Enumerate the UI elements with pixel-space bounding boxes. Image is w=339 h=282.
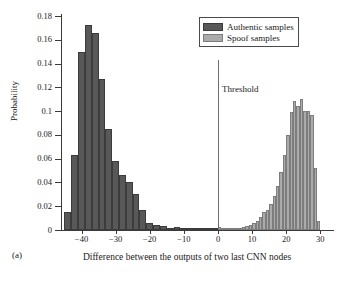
y-tick-label: 0.18 xyxy=(0,12,52,21)
x-tick-label: −10 xyxy=(169,235,199,244)
y-tick-label: 0.02 xyxy=(0,202,52,211)
x-axis-line xyxy=(61,230,334,231)
histogram-bar-authentic xyxy=(208,228,215,230)
y-tick-label: 0.1 xyxy=(0,107,52,116)
y-tick-label: 0 xyxy=(0,226,52,235)
histogram-bar-authentic xyxy=(92,33,99,230)
histogram-bar-authentic xyxy=(160,226,167,230)
histogram-bar-authentic xyxy=(133,194,140,230)
y-tick-label: 0.04 xyxy=(0,178,52,187)
histogram-bar-authentic xyxy=(105,129,112,230)
histogram-bar-authentic xyxy=(85,25,92,230)
x-tick-label: 0 xyxy=(203,235,233,244)
x-tick-label: −20 xyxy=(135,235,165,244)
histogram-bar-authentic xyxy=(194,228,201,230)
legend-swatch-authentic-icon xyxy=(203,23,223,31)
y-tick-label: 0.12 xyxy=(0,83,52,92)
y-tick-label: 0.16 xyxy=(0,35,52,44)
histogram-bar-authentic xyxy=(71,155,78,230)
threshold-label: Threshold xyxy=(222,84,259,94)
legend-swatch-spoof-icon xyxy=(203,34,223,42)
panel-label: (a) xyxy=(12,250,22,260)
y-axis-label: Probability xyxy=(9,56,19,146)
histogram-bar-authentic xyxy=(187,228,194,230)
x-tick-label: 20 xyxy=(271,235,301,244)
x-axis-label: Difference between the outputs of two la… xyxy=(42,252,332,262)
histogram-bar-authentic xyxy=(112,161,119,230)
legend-label-authentic: Authentic samples xyxy=(227,22,294,32)
histogram-bar-authentic xyxy=(139,210,146,230)
legend: Authentic samples Spoof samples xyxy=(199,17,299,47)
histogram-bar-spoof xyxy=(317,221,320,230)
y-tick-label: 0.14 xyxy=(0,59,52,68)
x-tick-label: −30 xyxy=(101,235,131,244)
legend-label-spoof: Spoof samples xyxy=(227,33,280,43)
histogram-bar-authentic xyxy=(119,175,126,230)
histogram-bar-authentic xyxy=(153,225,160,230)
y-tick-label: 0.08 xyxy=(0,130,52,139)
histogram-bar-authentic xyxy=(201,228,208,230)
histogram-bar-authentic xyxy=(180,228,187,230)
histogram-bar-authentic xyxy=(99,79,106,230)
legend-item-authentic: Authentic samples xyxy=(203,21,294,32)
y-tick-label: 0.06 xyxy=(0,154,52,163)
histogram-bar-authentic xyxy=(146,223,153,230)
plot-area xyxy=(61,16,334,230)
histogram-bar-authentic xyxy=(78,52,85,230)
legend-item-spoof: Spoof samples xyxy=(203,32,294,43)
y-tick-mark xyxy=(55,230,61,231)
figure-panel-a: 00.020.040.060.080.10.120.140.160.18 −40… xyxy=(0,0,339,282)
x-tick-label: −40 xyxy=(67,235,97,244)
threshold-line xyxy=(218,60,219,230)
histogram-bar-authentic xyxy=(64,212,71,230)
histogram-bar-authentic xyxy=(167,228,174,230)
histogram-bar-authentic xyxy=(174,227,181,230)
x-tick-label: 30 xyxy=(305,235,335,244)
histogram-bar-authentic xyxy=(126,182,133,230)
x-tick-label: 10 xyxy=(237,235,267,244)
